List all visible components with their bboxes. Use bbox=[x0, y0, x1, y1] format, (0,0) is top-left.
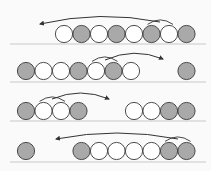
white-marble bbox=[52, 62, 69, 79]
white-marble bbox=[55, 25, 72, 42]
white-marble bbox=[125, 102, 142, 119]
white-marble bbox=[35, 102, 52, 119]
white-marble bbox=[143, 142, 160, 159]
gray-marble bbox=[178, 62, 195, 79]
white-marble bbox=[125, 142, 142, 159]
gray-marble bbox=[178, 102, 195, 119]
gray-marble bbox=[17, 62, 34, 79]
gray-marble bbox=[105, 62, 122, 79]
move-arrow-left bbox=[56, 133, 178, 139]
pair-bracket bbox=[92, 57, 118, 62]
white-marble bbox=[52, 102, 69, 119]
gray-marble bbox=[178, 25, 195, 42]
gray-marble bbox=[70, 62, 87, 79]
marble-move-diagram bbox=[0, 0, 211, 171]
gray-marble bbox=[17, 102, 34, 119]
white-marble bbox=[160, 25, 177, 42]
white-marble bbox=[87, 62, 104, 79]
marble-row bbox=[10, 16, 206, 44]
gray-marble bbox=[178, 142, 195, 159]
gray-marble bbox=[108, 25, 125, 42]
white-marble bbox=[90, 25, 107, 42]
move-arrow-right bbox=[52, 93, 109, 99]
gray-marble bbox=[143, 25, 160, 42]
white-marble bbox=[108, 142, 125, 159]
gray-marble bbox=[70, 102, 87, 119]
gray-marble bbox=[17, 142, 34, 159]
gray-marble bbox=[160, 102, 177, 119]
white-marble bbox=[143, 102, 160, 119]
white-marble bbox=[122, 62, 139, 79]
white-marble bbox=[35, 62, 52, 79]
marble-row bbox=[10, 133, 206, 162]
gray-marble bbox=[73, 142, 90, 159]
marble-row bbox=[10, 53, 206, 82]
white-marble bbox=[125, 25, 142, 42]
gray-marble bbox=[160, 142, 177, 159]
marble-row bbox=[10, 93, 206, 121]
move-arrow-left bbox=[40, 16, 160, 24]
white-marble bbox=[90, 142, 107, 159]
gray-marble bbox=[73, 25, 90, 42]
